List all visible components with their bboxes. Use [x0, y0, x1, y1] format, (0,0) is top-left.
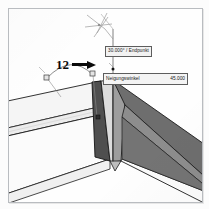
screenshot-root: 30.000° / Endpunkt Neigungswinkel 45.000… [0, 0, 209, 209]
arc-dim-tick [39, 67, 45, 73]
cad-drawing-canvas[interactable] [9, 9, 202, 202]
right-arrow-icon [72, 61, 96, 69]
snap-tooltip-text: 30.000° / Endpunkt [108, 49, 149, 54]
grip-square-handle-left[interactable] [44, 75, 49, 80]
grip-square-handle-right[interactable] [90, 71, 95, 76]
cad-viewport-frame [8, 8, 203, 203]
inclination-angle-label: Neigungswinkel [106, 77, 140, 82]
snap-endpoint-dot[interactable] [112, 68, 115, 71]
callout-leader-line [109, 63, 113, 67]
inclination-angle-value[interactable]: 45.000 [170, 77, 185, 82]
grip-square-handle-mid[interactable] [96, 115, 100, 119]
inclination-angle-box[interactable]: Neigungswinkel 45.000 [103, 73, 188, 85]
callout-number: 12 [56, 58, 69, 71]
cad-geometry-svg [9, 9, 202, 202]
callout-12: 12 [56, 58, 96, 71]
snap-tooltip-box: 30.000° / Endpunkt [105, 46, 152, 57]
crosshair-center-dot [98, 24, 100, 26]
arrow-shaft [72, 63, 88, 66]
arrow-head [87, 61, 96, 69]
center-wedge-gusset [110, 161, 121, 171]
